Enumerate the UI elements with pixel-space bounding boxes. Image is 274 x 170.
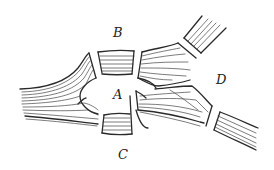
west-river — [20, 53, 98, 126]
southeast-channel — [138, 86, 212, 123]
upper-channel-segment — [98, 50, 134, 74]
bridge-ab-right — [132, 51, 142, 78]
label-a: A — [112, 87, 122, 102]
river-bridges-diagram: A B C D — [0, 0, 274, 170]
lower-channel-segment — [102, 113, 132, 134]
label-b: B — [112, 25, 123, 40]
label-c: C — [118, 147, 128, 162]
southeast-river — [214, 112, 258, 150]
bridge-cd — [206, 106, 220, 130]
northeast-river — [184, 16, 226, 53]
label-d: D — [215, 72, 227, 87]
